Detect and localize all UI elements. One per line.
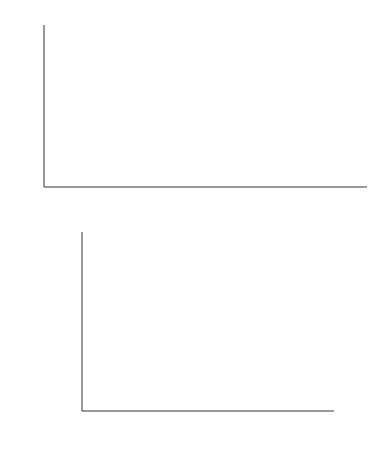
figure (0, 0, 384, 456)
bottom-chart (0, 0, 334, 411)
top-chart (44, 25, 367, 187)
